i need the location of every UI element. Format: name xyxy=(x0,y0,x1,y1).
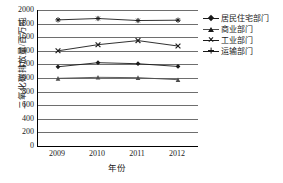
x-tick-label: 2009 xyxy=(37,149,77,159)
legend-item[interactable]: 工业部门 xyxy=(203,35,283,46)
series-line xyxy=(58,63,178,67)
x-tick-label: 2011 xyxy=(117,149,157,159)
legend-item-label: 运输部门 xyxy=(219,47,253,57)
chart-legend: 居民住宅部门商业部门工业部门运输部门 xyxy=(203,13,283,57)
y-tick-label: 1800 xyxy=(4,20,34,28)
y-tick-label: 1200 xyxy=(4,60,34,68)
y-tick-label: 400 xyxy=(4,115,34,123)
y-tick-label: 600 xyxy=(4,101,34,109)
x-axis-tick-labels: 2009201020112012 xyxy=(37,149,197,161)
data-point-marker xyxy=(55,17,60,22)
series-layer xyxy=(38,10,198,146)
y-tick-label: 1000 xyxy=(4,74,34,82)
x-axis-title: 年份 xyxy=(37,163,197,173)
x-tick-label: 2010 xyxy=(77,149,117,159)
y-tick-label: 0 xyxy=(4,142,34,150)
plot-area xyxy=(37,10,198,147)
data-point-marker xyxy=(95,16,100,21)
data-point-marker xyxy=(96,60,101,65)
series-line xyxy=(58,77,178,79)
series-line xyxy=(58,41,178,51)
data-point-marker xyxy=(175,18,180,23)
y-tick-label: 800 xyxy=(4,88,34,96)
legend-item[interactable]: 商业部门 xyxy=(203,24,283,35)
legend-marker-icon xyxy=(203,47,219,57)
legend-item[interactable]: 运输部门 xyxy=(203,46,283,57)
legend-marker-icon xyxy=(203,36,219,46)
data-point-marker xyxy=(136,61,141,66)
line-chart: 二氧化碳排放量/百万吨 0200400600800100012001400160… xyxy=(0,0,283,183)
y-tick-label: 200 xyxy=(4,128,34,136)
data-point-marker xyxy=(135,18,140,23)
y-axis-tick-labels: 0200400600800100012001400160018002000 xyxy=(4,10,34,146)
x-tick-label: 2012 xyxy=(157,149,197,159)
series-line xyxy=(58,19,178,21)
y-tick-label: 1600 xyxy=(4,33,34,41)
data-point-marker xyxy=(56,64,61,69)
legend-item-label: 工业部门 xyxy=(219,36,253,46)
legend-item[interactable]: 居民住宅部门 xyxy=(203,13,283,24)
data-point-marker xyxy=(176,64,181,69)
y-tick-label: 2000 xyxy=(4,6,34,14)
legend-item-label: 居民住宅部门 xyxy=(219,14,269,24)
legend-marker-icon xyxy=(203,25,219,35)
legend-marker-icon xyxy=(203,14,219,24)
legend-item-label: 商业部门 xyxy=(219,25,253,35)
y-tick-label: 1400 xyxy=(4,47,34,55)
